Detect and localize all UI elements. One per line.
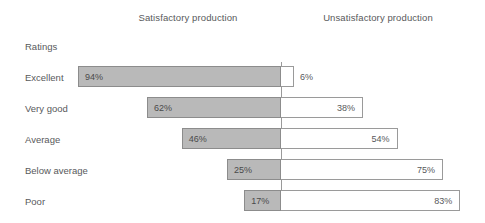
chart-row: Excellent94%6% — [0, 66, 485, 88]
row-label-poor: Poor — [25, 196, 45, 207]
bar-value-satisfactory: 46% — [183, 134, 207, 144]
stacked-bar: 17%83% — [244, 190, 460, 211]
row-label-below-average: Below average — [25, 165, 88, 176]
bar-segment-satisfactory: 94% — [78, 66, 281, 87]
bar-value-unsatisfactory: 75% — [417, 165, 442, 175]
bar-segment-unsatisfactory: 6% — [281, 66, 294, 87]
bar-segment-satisfactory: 62% — [147, 97, 281, 118]
bar-value-unsatisfactory: 6% — [293, 72, 313, 82]
chart-row: Below average25%75% — [0, 159, 485, 181]
bar-value-unsatisfactory: 38% — [337, 103, 362, 113]
bar-value-unsatisfactory: 54% — [372, 134, 397, 144]
bar-segment-unsatisfactory: 38% — [281, 97, 363, 118]
bar-segment-satisfactory: 25% — [227, 159, 281, 180]
stacked-bar: 94%6% — [78, 66, 294, 87]
stacked-bar: 46%54% — [182, 128, 398, 149]
stacked-bar: 25%75% — [227, 159, 443, 180]
column-header-satisfactory: Satisfactory production — [139, 12, 238, 23]
bar-value-satisfactory: 25% — [228, 165, 252, 175]
bar-segment-unsatisfactory: 54% — [281, 128, 398, 149]
bar-value-unsatisfactory: 83% — [434, 196, 459, 206]
chart-row: Poor17%83% — [0, 190, 485, 212]
axis-label-ratings: Ratings — [25, 41, 57, 52]
chart-row: Average46%54% — [0, 128, 485, 150]
diverging-bar-chart: Satisfactory production Unsatisfactory p… — [0, 0, 485, 223]
stacked-bar: 62%38% — [147, 97, 363, 118]
row-label-average: Average — [25, 134, 60, 145]
bar-value-satisfactory: 94% — [79, 72, 103, 82]
bar-segment-unsatisfactory: 83% — [281, 190, 460, 211]
bar-segment-satisfactory: 17% — [244, 190, 281, 211]
row-label-excellent: Excellent — [25, 72, 64, 83]
chart-row: Very good62%38% — [0, 97, 485, 119]
bar-segment-unsatisfactory: 75% — [281, 159, 443, 180]
bar-value-satisfactory: 17% — [245, 196, 269, 206]
bar-value-satisfactory: 62% — [148, 103, 172, 113]
column-header-unsatisfactory: Unsatisfactory production — [323, 12, 433, 23]
bar-segment-satisfactory: 46% — [182, 128, 281, 149]
row-label-very-good: Very good — [25, 103, 68, 114]
